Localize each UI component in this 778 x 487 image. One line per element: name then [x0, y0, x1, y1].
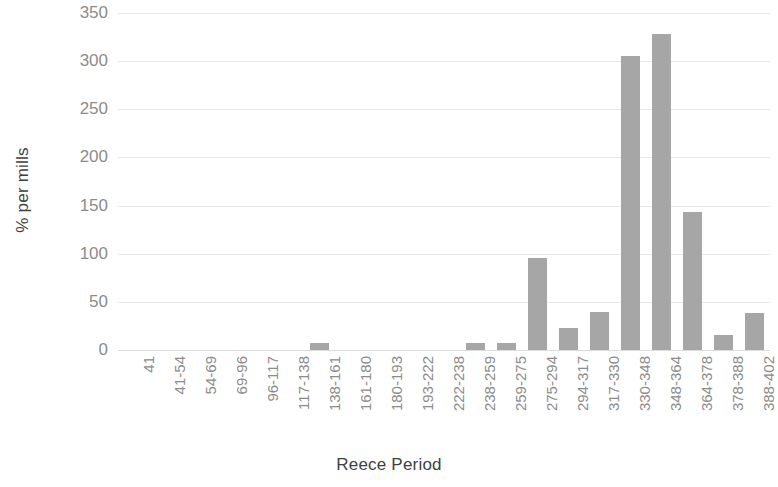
bar[interactable] — [528, 258, 547, 350]
y-axis-tick-label: 100 — [80, 244, 108, 264]
bar-slot — [428, 13, 459, 350]
bar-slot — [677, 13, 708, 350]
bar[interactable] — [621, 56, 640, 350]
y-axis-tick-label: 150 — [80, 196, 108, 216]
x-tick-slot: 96-117 — [242, 352, 273, 452]
x-tick-slot: 330-348 — [615, 352, 646, 452]
bars-layer — [118, 13, 770, 350]
x-tick-slot: 388-402 — [739, 352, 770, 452]
bar[interactable] — [652, 34, 671, 350]
y-axis-title: % per mills — [8, 95, 38, 285]
x-tick-slot: 193-222 — [397, 352, 428, 452]
y-axis-tick-label: 250 — [80, 99, 108, 119]
bar-slot — [491, 13, 522, 350]
bar-slot — [615, 13, 646, 350]
bar[interactable] — [745, 313, 764, 350]
bar[interactable] — [683, 212, 702, 350]
bar-slot — [739, 13, 770, 350]
x-tick-slot: 161-180 — [335, 352, 366, 452]
x-tick-slot: 348-364 — [646, 352, 677, 452]
bar-slot — [304, 13, 335, 350]
x-axis-title-label: Reece Period — [336, 455, 441, 474]
y-axis-tick-labels: 050100150200250300350 — [40, 0, 112, 360]
bar[interactable] — [497, 343, 516, 350]
bar-slot — [522, 13, 553, 350]
bar-slot — [180, 13, 211, 350]
x-tick-slot: 54-69 — [180, 352, 211, 452]
bar-slot — [460, 13, 491, 350]
bar-slot — [584, 13, 615, 350]
plot-area — [118, 13, 770, 350]
x-tick-slot: 294-317 — [553, 352, 584, 452]
bar[interactable] — [310, 343, 329, 350]
y-axis-tick-label: 300 — [80, 51, 108, 71]
bar-slot — [708, 13, 739, 350]
bar-slot — [646, 13, 677, 350]
y-axis-tick-label: 200 — [80, 147, 108, 167]
x-tick-slot: 41 — [118, 352, 149, 452]
bar-slot — [118, 13, 149, 350]
x-tick-slot: 364-378 — [677, 352, 708, 452]
bar-slot — [273, 13, 304, 350]
gridline — [118, 350, 770, 351]
y-axis-tick-label: 0 — [99, 340, 108, 360]
y-axis-title-label: % per mills — [13, 147, 33, 232]
bar-slot — [366, 13, 397, 350]
x-tick-slot: 317-330 — [584, 352, 615, 452]
x-tick-slot: 378-388 — [708, 352, 739, 452]
bar[interactable] — [466, 343, 485, 350]
x-tick-slot: 259-275 — [491, 352, 522, 452]
bar-slot — [397, 13, 428, 350]
x-tick-slot: 238-259 — [460, 352, 491, 452]
bar-slot — [553, 13, 584, 350]
x-tick-slot: 180-193 — [366, 352, 397, 452]
bar-slot — [149, 13, 180, 350]
x-axis-title: Reece Period — [0, 455, 778, 475]
bar-slot — [335, 13, 366, 350]
bar-chart: % per mills 050100150200250300350 4141-5… — [0, 0, 778, 487]
x-tick-slot: 222-238 — [428, 352, 459, 452]
x-axis-tick-label: 388-402 — [760, 356, 777, 411]
x-tick-slot: 275-294 — [522, 352, 553, 452]
bar[interactable] — [714, 335, 733, 350]
bar[interactable] — [590, 312, 609, 351]
y-axis-tick-label: 50 — [89, 292, 108, 312]
x-tick-slot: 41-54 — [149, 352, 180, 452]
x-tick-slot: 69-96 — [211, 352, 242, 452]
x-tick-slot: 117-138 — [273, 352, 304, 452]
y-axis-tick-label: 350 — [80, 3, 108, 23]
bar[interactable] — [559, 328, 578, 350]
x-tick-slot: 138-161 — [304, 352, 335, 452]
bar-slot — [242, 13, 273, 350]
bar-slot — [211, 13, 242, 350]
x-axis-tick-labels: 4141-5454-6969-9696-117117-138138-161161… — [118, 352, 770, 452]
